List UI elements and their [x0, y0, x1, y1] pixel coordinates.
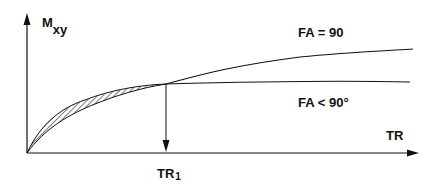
- y-axis-arrow-icon: [24, 13, 31, 25]
- label-fa-less-90: FA < 90°: [298, 95, 349, 110]
- hatched-region: [27, 84, 166, 153]
- curve-fa-90: [166, 49, 413, 84]
- x-axis-arrow-icon: [407, 150, 419, 157]
- y-axis-label: Mxy: [42, 15, 68, 37]
- tr1-label: TR1: [157, 166, 181, 182]
- label-fa-90: FA = 90: [298, 25, 343, 40]
- curve-fa-less-90: [166, 81, 410, 84]
- diagram: Mxy FA = 90 FA < 90° TR TR1: [0, 0, 436, 188]
- x-axis-label: TR: [386, 128, 404, 143]
- tr1-arrow-icon: [163, 140, 170, 152]
